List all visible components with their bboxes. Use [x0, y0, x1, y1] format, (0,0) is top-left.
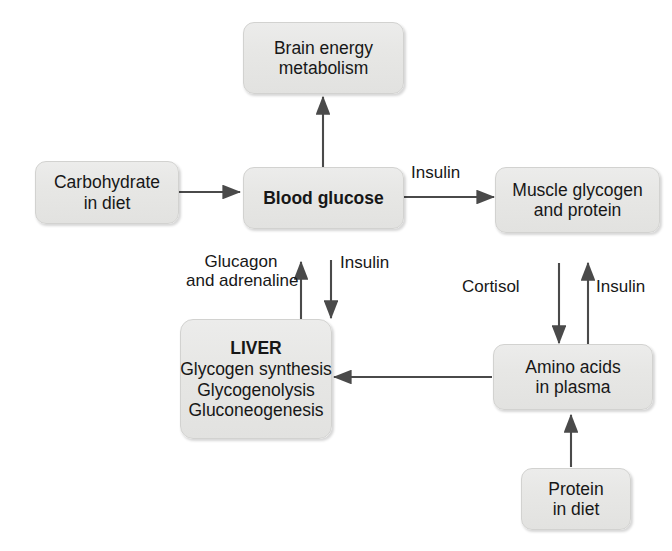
node-line: Blood glucose — [263, 188, 384, 208]
node-line: and protein — [534, 200, 622, 220]
node-line: Carbohydrate — [54, 172, 160, 192]
node-carbohydrate-in-diet: Carbohydrate in diet — [35, 161, 179, 224]
node-liver: LIVER Glycogen synthesis Glycogenolysis … — [180, 319, 332, 439]
node-protein-in-diet: Protein in diet — [521, 468, 631, 530]
node-amino-acids-in-plasma: Amino acids in plasma — [493, 344, 653, 410]
edge-label-line: and adrenaline — [186, 271, 298, 290]
node-line: Gluconeogenesis — [188, 400, 323, 420]
node-line: metabolism — [279, 58, 368, 78]
node-brain-energy-metabolism: Brain energy metabolism — [243, 22, 404, 94]
node-line: Glycogen synthesis — [180, 359, 332, 379]
edge-label-insulin-glucose-to-liver: Insulin — [340, 253, 389, 272]
edge-label-insulin-amino-to-muscle: Insulin — [596, 277, 645, 296]
node-title: LIVER — [230, 338, 282, 358]
node-line: Protein — [548, 479, 603, 499]
node-line: Glycogenolysis — [197, 380, 315, 400]
node-line: Muscle glycogen — [512, 180, 642, 200]
node-muscle-glycogen-and-protein: Muscle glycogen and protein — [495, 167, 660, 233]
edge-label-insulin-glucose-to-muscle: Insulin — [411, 163, 460, 182]
edge-label-line: Glucagon — [205, 252, 278, 271]
node-line: in diet — [84, 193, 131, 213]
edge-label-cortisol: Cortisol — [462, 277, 520, 296]
node-line: Amino acids — [525, 357, 620, 377]
node-blood-glucose: Blood glucose — [243, 167, 404, 229]
edge-label-glucagon-and-adrenaline: Glucagon and adrenaline — [186, 252, 296, 291]
node-line: in diet — [553, 499, 600, 519]
node-line: in plasma — [536, 377, 611, 397]
metabolism-diagram: Brain energy metabolism Carbohydrate in … — [0, 0, 672, 551]
node-line: Brain energy — [274, 38, 373, 58]
